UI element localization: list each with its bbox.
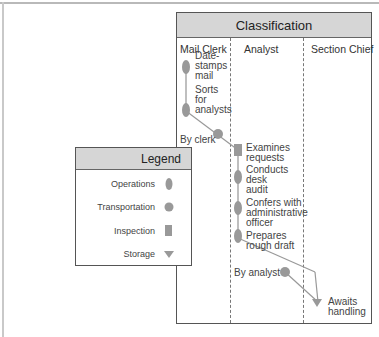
operation-icon [182, 103, 190, 117]
operation-icon [234, 170, 242, 184]
operation-icon [234, 229, 242, 243]
legend-symbols [76, 148, 193, 267]
operation-icon [234, 201, 242, 215]
step-label: Confers withadministrativeofficer [246, 198, 308, 228]
transportation-icon [280, 267, 290, 277]
legend-panel: Legend Operations Transportation Inspect… [75, 147, 192, 266]
storage-icon [312, 299, 322, 307]
step-label: Date-stampsmail [195, 51, 227, 81]
step-label: Preparesrough draft [246, 231, 294, 251]
step-label: Examinesrequests [246, 143, 290, 163]
storage-icon [164, 251, 174, 258]
step-label: Conductsdeskaudit [246, 165, 288, 195]
operation-icon [166, 178, 173, 190]
step-label: By analyst [234, 268, 280, 278]
inspection-icon [165, 225, 172, 236]
operation-icon [182, 60, 190, 74]
transportation-icon [165, 203, 174, 212]
inspection-icon [234, 144, 242, 156]
step-label: By clerk [180, 135, 216, 145]
step-label: Awaitshandling [328, 297, 366, 317]
step-label: Sortsforanalysts [195, 85, 232, 115]
